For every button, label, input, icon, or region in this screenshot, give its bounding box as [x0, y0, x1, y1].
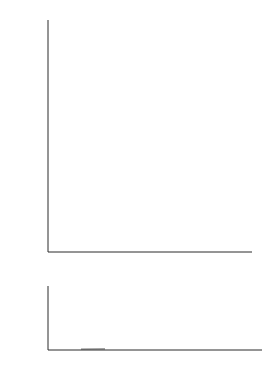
figure-container	[0, 0, 271, 391]
bottom-panel-axes	[48, 286, 262, 350]
top-panel-axes	[48, 20, 252, 252]
bottom-x-axis-label	[0, 365, 271, 375]
top-panel-chart	[0, 0, 271, 272]
